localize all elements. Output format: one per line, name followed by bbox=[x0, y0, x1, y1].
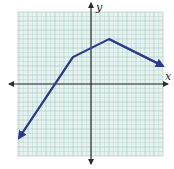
coordinate-plane: x y bbox=[0, 0, 174, 169]
y-axis-label: y bbox=[95, 1, 103, 14]
x-axis-label: x bbox=[165, 70, 172, 83]
